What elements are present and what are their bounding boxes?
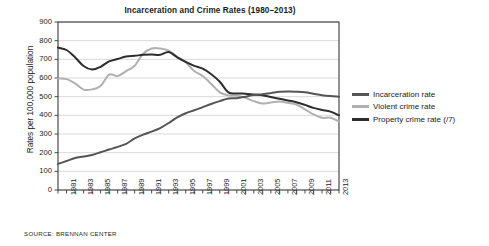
legend-item-label: Property crime rate (/7) [373,115,455,124]
legend-item[interactable]: Incarceration rate [352,88,455,101]
legend-swatch-icon [352,105,369,108]
legend-item-label: Incarceration rate [373,90,435,99]
chart-figure: Incarceration and Crime Rates (1980–2013… [0,0,489,246]
legend-swatch-icon [352,93,369,96]
legend-item-label: Violent crime rate [373,102,435,111]
plot-border [58,22,339,190]
chart-legend: Incarceration rateViolent crime rateProp… [352,88,455,126]
legend-swatch-icon [352,118,369,121]
source-note: SOURCE: BRENNAN CENTER [24,230,117,237]
legend-item[interactable]: Violent crime rate [352,101,455,114]
legend-item[interactable]: Property crime rate (/7) [352,113,455,126]
